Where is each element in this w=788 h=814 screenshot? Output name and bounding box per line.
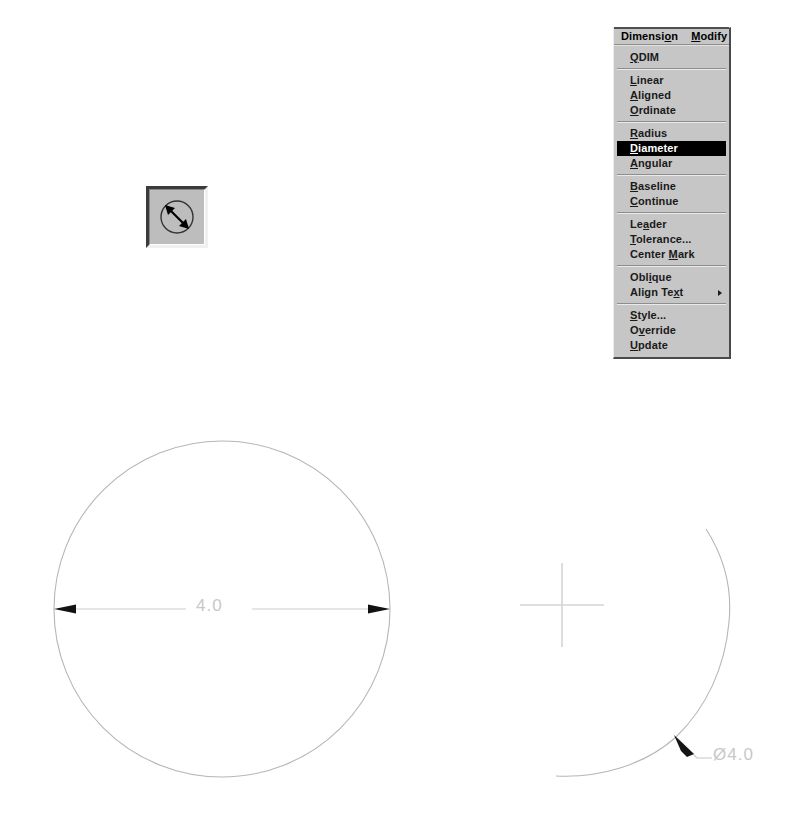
menu-item-qdim-label-post: DIM — [639, 51, 659, 63]
menu-item-center-mark-label-post: ark — [678, 248, 695, 260]
menu-item-radius-mnemonic: R — [630, 127, 638, 139]
menu-item-update[interactable]: Update — [614, 338, 729, 353]
menubar-item-modify[interactable]: Modify — [687, 29, 731, 43]
menu-item-ordinate-label-post: rdinate — [639, 104, 676, 116]
dimension-menu-window[interactable]: Dimension Modify QDIMLinearAlignedOrdina… — [613, 27, 731, 359]
menu-item-baseline[interactable]: Baseline — [614, 179, 729, 194]
menu-item-linear[interactable]: Linear — [614, 73, 729, 88]
menu-item-aligned[interactable]: Aligned — [614, 88, 729, 103]
menu-item-leader[interactable]: Leader — [614, 217, 729, 232]
menu-item-diameter[interactable]: Diameter — [617, 141, 726, 156]
menu-separator — [617, 68, 726, 70]
menu-separator — [617, 121, 726, 123]
menubar-item-dimension[interactable]: Dimension — [617, 29, 682, 43]
menu-separator — [617, 212, 726, 214]
leader-arrowhead — [674, 735, 694, 757]
menu-item-linear-label-post: inear — [637, 74, 664, 86]
button-face — [149, 189, 205, 245]
target-circle-arc[interactable] — [556, 529, 730, 776]
menu-item-leader-label-pre: Le — [630, 218, 643, 230]
menu-item-angular-mnemonic: A — [630, 157, 638, 169]
menu-item-qdim[interactable]: QDIM — [614, 50, 729, 65]
menu-item-baseline-mnemonic: B — [630, 180, 638, 192]
menu-separator — [617, 303, 726, 305]
menubar-item-dimension-label-pre: Dimensi — [621, 30, 665, 42]
diameter-dimension-tool-button[interactable] — [146, 186, 208, 248]
menu-item-radius-label-post: adius — [638, 127, 667, 139]
menu-item-center-mark-mnemonic: M — [669, 248, 678, 260]
menu-item-update-label-post: pdate — [638, 339, 668, 351]
menu-item-angular[interactable]: Angular — [614, 156, 729, 171]
menu-item-align-text-label-pre: Align Te — [630, 286, 673, 298]
crosshair-cursor — [520, 563, 604, 647]
menu-item-diameter-label-post: iameter — [638, 142, 678, 154]
menu-item-leader-label-post: der — [649, 218, 666, 230]
menu-item-qdim-mnemonic: Q — [630, 51, 639, 63]
menu-item-angular-label-post: ngular — [638, 157, 672, 169]
menu-item-aligned-label-post: ligned — [638, 89, 671, 101]
submenu-chevron-right-icon — [718, 290, 722, 296]
dimension-arrowhead-left — [54, 605, 76, 614]
menu-item-radius[interactable]: Radius — [614, 126, 729, 141]
menu-item-override-label-pre: O — [630, 324, 639, 336]
menu-item-align-text-label-post: t — [680, 286, 684, 298]
menu-item-baseline-label-post: aseline — [638, 180, 676, 192]
menu-item-oblique[interactable]: Oblique — [614, 270, 729, 285]
menu-item-oblique-label-pre: Obl — [630, 271, 649, 283]
dimension-value-left: 4.0 — [196, 596, 223, 616]
menu-item-override[interactable]: Override — [614, 323, 729, 338]
menu-item-aligned-mnemonic: A — [630, 89, 638, 101]
menu-item-override-label-post: erride — [645, 324, 676, 336]
dimension-arrowhead-right — [368, 605, 390, 614]
menu-bar[interactable]: Dimension Modify — [614, 28, 729, 45]
menu-item-linear-mnemonic: L — [630, 74, 637, 86]
menu-item-ordinate-mnemonic: O — [630, 104, 639, 116]
menu-item-tolerance[interactable]: Tolerance... — [614, 232, 729, 247]
menu-item-align-text[interactable]: Align Text — [614, 285, 729, 300]
menu-item-continue[interactable]: Continue — [614, 194, 729, 209]
dimension-dropdown-menu[interactable]: QDIMLinearAlignedOrdinateRadiusDiameterA… — [614, 45, 729, 357]
menu-separator — [617, 265, 726, 267]
diameter-leader[interactable] — [674, 735, 712, 758]
menu-item-continue-mnemonic: C — [630, 195, 638, 207]
menu-item-center-mark[interactable]: Center Mark — [614, 247, 729, 262]
menu-item-diameter-mnemonic: D — [630, 142, 638, 154]
circle-diameter-arrow-icon — [155, 195, 199, 239]
menu-item-style[interactable]: Style... — [614, 308, 729, 323]
menu-item-oblique-label-post: que — [652, 271, 672, 283]
menu-separator — [617, 174, 726, 176]
menu-item-center-mark-label-pre: Center — [630, 248, 669, 260]
menu-item-update-mnemonic: U — [630, 339, 638, 351]
menu-item-continue-label-post: ontinue — [638, 195, 678, 207]
dimension-value-right: Ø4.0 — [713, 745, 754, 765]
menubar-item-modify-label-post: odify — [700, 30, 727, 42]
menu-item-tolerance-label-post: olerance... — [636, 233, 692, 245]
menu-item-style-label-post: tyle... — [637, 309, 666, 321]
menu-item-ordinate[interactable]: Ordinate — [614, 103, 729, 118]
menubar-item-dimension-label-post: n — [671, 30, 678, 42]
